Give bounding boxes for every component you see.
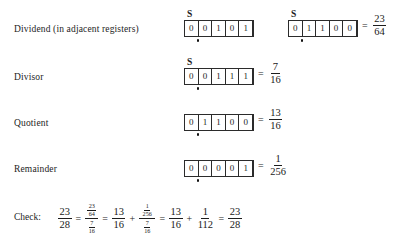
fraction-denominator: 256 bbox=[141, 211, 153, 218]
fraction-denominator: 64 bbox=[373, 26, 387, 37]
equals-sign: = bbox=[218, 214, 225, 224]
row-label-divisor: Divisor bbox=[14, 72, 44, 82]
row-check: Check: 23 28 = 23 64 7 16 bbox=[0, 198, 409, 244]
register-bit: 1 bbox=[212, 21, 226, 36]
fraction-denominator: 28 bbox=[58, 219, 72, 230]
register-divisor: S 0 0 1 1 1 bbox=[184, 68, 254, 85]
fraction-divisor: 7 16 bbox=[269, 62, 283, 85]
check-expression: 23 28 = 23 64 7 16 = bbox=[58, 203, 242, 234]
radix-point-dot bbox=[301, 39, 304, 42]
register-bit: 0 bbox=[212, 161, 226, 176]
equals-sign: = bbox=[258, 69, 264, 79]
sign-bit-label: S bbox=[187, 57, 192, 68]
register-bit: 1 bbox=[212, 69, 226, 84]
register-bit: 0 bbox=[226, 161, 240, 176]
radix-point-dot bbox=[197, 39, 200, 42]
sign-bit-label: S bbox=[187, 9, 192, 20]
radix-point-dot bbox=[197, 133, 200, 136]
register-dividend-low: S 0 1 1 0 0 bbox=[288, 20, 358, 37]
plus-sign: + bbox=[186, 214, 193, 224]
fraction-numerator: 13 bbox=[112, 207, 126, 219]
fraction-denominator: 16 bbox=[87, 228, 96, 235]
register-bit: 1 bbox=[239, 161, 253, 176]
register-bit: 0 bbox=[330, 21, 344, 36]
register-bit: 1 bbox=[239, 21, 253, 36]
division-register-figure: Dividend (in adjacent registers) S 0 0 1… bbox=[0, 0, 409, 244]
fraction-denominator: 64 bbox=[87, 211, 96, 218]
fraction-denominator: 16 bbox=[269, 120, 283, 131]
row-remainder: Remainder 0 0 0 0 1 = 1 256 bbox=[0, 150, 409, 196]
radix-point-dot bbox=[197, 179, 200, 182]
divisor-value: = 7 16 bbox=[258, 62, 282, 85]
register-bit: 1 bbox=[226, 69, 240, 84]
register-bit: 0 bbox=[343, 21, 357, 36]
check-term-1: 23 28 bbox=[58, 207, 72, 230]
register-bit: 1 bbox=[316, 21, 330, 36]
row-dividend: Dividend (in adjacent registers) S 0 0 1… bbox=[0, 10, 409, 56]
fraction-numerator: 1 bbox=[201, 207, 209, 219]
fraction-inner: 1 256 bbox=[141, 203, 153, 217]
register-bit: 0 bbox=[199, 161, 213, 176]
fraction-dividend: 23 64 bbox=[373, 14, 387, 37]
check-term-3: 13 16 bbox=[112, 207, 126, 230]
fraction-numerator: 23 bbox=[373, 14, 387, 26]
fraction-inner: 7 16 bbox=[143, 220, 152, 234]
fraction-denominator: 16 bbox=[169, 219, 183, 230]
remainder-value: = 1 256 bbox=[258, 154, 287, 177]
sign-bit-label: S bbox=[291, 9, 296, 20]
check-term-6: 1 112 bbox=[196, 207, 214, 230]
check-term-7: 23 28 bbox=[228, 207, 242, 230]
equals-sign: = bbox=[258, 115, 264, 125]
register-bit: 0 bbox=[239, 115, 253, 130]
equals-sign: = bbox=[75, 214, 82, 224]
check-term-5: 13 16 bbox=[169, 207, 183, 230]
complex-fraction-numerator: 1 256 bbox=[139, 203, 155, 219]
register-bit: 0 bbox=[185, 69, 199, 84]
check-term-4: 1 256 7 16 bbox=[139, 203, 155, 234]
radix-point-dot bbox=[197, 87, 200, 90]
complex-fraction-numerator: 23 64 bbox=[85, 203, 98, 219]
equals-sign: = bbox=[159, 214, 166, 224]
check-term-2: 23 64 7 16 bbox=[85, 203, 98, 234]
register-bit: 1 bbox=[303, 21, 317, 36]
fraction-inner: 7 16 bbox=[87, 220, 96, 234]
register-bit: 1 bbox=[212, 115, 226, 130]
equals-sign: = bbox=[102, 214, 109, 224]
register-bit: 1 bbox=[239, 69, 253, 84]
equals-sign: = bbox=[362, 21, 368, 31]
check-label: Check: bbox=[14, 212, 41, 222]
fraction-denominator: 16 bbox=[269, 74, 283, 85]
register-bit: 0 bbox=[226, 115, 240, 130]
row-divisor: Divisor S 0 0 1 1 1 = 7 16 bbox=[0, 58, 409, 104]
register-bit: 0 bbox=[199, 21, 213, 36]
row-label-remainder: Remainder bbox=[14, 164, 57, 174]
register-dividend-high: S 0 0 1 0 1 bbox=[184, 20, 254, 37]
equals-sign: = bbox=[258, 161, 264, 171]
register-bit: 0 bbox=[199, 69, 213, 84]
fraction-numerator: 23 bbox=[228, 207, 242, 219]
complex-fraction-denominator: 7 16 bbox=[141, 219, 154, 234]
register-remainder: 0 0 0 0 1 bbox=[184, 160, 254, 177]
register-bit: 0 bbox=[185, 115, 199, 130]
plus-sign: + bbox=[129, 214, 136, 224]
register-bit: 0 bbox=[226, 21, 240, 36]
register-bit: 1 bbox=[199, 115, 213, 130]
quotient-value: = 13 16 bbox=[258, 108, 282, 131]
dividend-value: = 23 64 bbox=[362, 14, 386, 37]
register-bit: 0 bbox=[289, 21, 303, 36]
register-quotient: 0 1 1 0 0 bbox=[184, 114, 254, 131]
fraction-quotient: 13 16 bbox=[269, 108, 283, 131]
fraction-inner: 23 64 bbox=[87, 203, 96, 217]
row-label-dividend: Dividend (in adjacent registers) bbox=[14, 24, 139, 34]
fraction-denominator: 256 bbox=[269, 166, 288, 177]
fraction-numerator: 13 bbox=[169, 207, 183, 219]
fraction-denominator: 28 bbox=[228, 219, 242, 230]
fraction-denominator: 16 bbox=[143, 228, 152, 235]
fraction-numerator: 7 bbox=[271, 62, 279, 74]
row-label-quotient: Quotient bbox=[14, 118, 48, 128]
register-bit: 0 bbox=[185, 21, 199, 36]
fraction-remainder: 1 256 bbox=[269, 154, 288, 177]
register-bit: 0 bbox=[185, 161, 199, 176]
fraction-numerator: 1 bbox=[274, 154, 282, 166]
complex-fraction-denominator: 7 16 bbox=[85, 219, 98, 234]
